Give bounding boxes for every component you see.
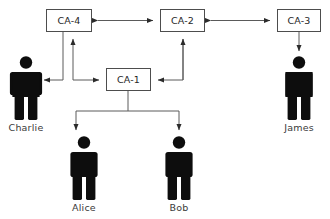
person-bob-label: Bob (170, 202, 189, 213)
edge-ca1-alice (76, 91, 128, 130)
edge-ca1-bob (128, 111, 179, 130)
person-icon (165, 136, 192, 200)
person-bob[interactable]: Bob (165, 136, 192, 213)
person-charlie[interactable]: Charlie (9, 56, 44, 133)
person-alice-label: Alice (72, 202, 96, 213)
edge-ca1-ca4 (73, 39, 99, 80)
node-ca-3[interactable]: CA-3 (278, 10, 321, 32)
edge-ca2-ca1 (158, 39, 183, 80)
person-alice[interactable]: Alice (70, 136, 97, 213)
node-ca-3-label: CA-3 (287, 15, 310, 26)
person-icon (10, 56, 42, 120)
node-ca-2[interactable]: CA-2 (161, 10, 205, 32)
person-james[interactable]: James (283, 56, 314, 133)
person-icon (285, 56, 312, 120)
edge-ca4-charlie (44, 32, 63, 80)
person-icon (70, 136, 97, 200)
node-ca-4[interactable]: CA-4 (47, 10, 92, 32)
person-james-label: James (283, 122, 314, 133)
person-charlie-label: Charlie (9, 122, 44, 133)
diagram-canvas: CA-4 CA-2 CA-3 CA-1 Charlie (0, 0, 330, 219)
diagram-root: CA-4 CA-2 CA-3 CA-1 Charlie (0, 0, 330, 219)
node-ca-4-label: CA-4 (57, 15, 80, 26)
node-ca-1[interactable]: CA-1 (107, 69, 151, 91)
node-ca-1-label: CA-1 (117, 74, 140, 85)
node-ca-2-label: CA-2 (171, 15, 194, 26)
